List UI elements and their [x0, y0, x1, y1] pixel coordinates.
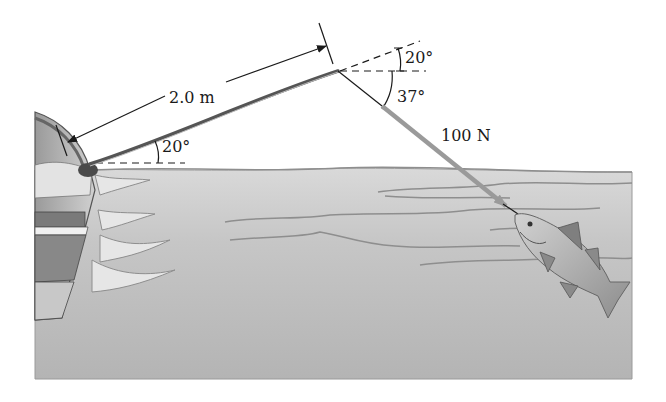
tip-angle-lower-label: 37° [397, 89, 425, 105]
rod-length-label: 2.0 m [169, 90, 215, 106]
fishing-line [338, 71, 382, 106]
force-label: 100 N [441, 128, 491, 144]
tip-angle-arc-upper [398, 48, 401, 71]
fishing-rod-diagram: 2.0 m 20° 20° 37° 100 N [0, 0, 666, 402]
tip-angle-arc-lower [382, 71, 392, 109]
rod-angle-arc [155, 141, 159, 163]
tip-angle-upper-label: 20° [405, 50, 433, 66]
rod-angle-label: 20° [162, 139, 190, 155]
fishing-rod [90, 71, 338, 166]
